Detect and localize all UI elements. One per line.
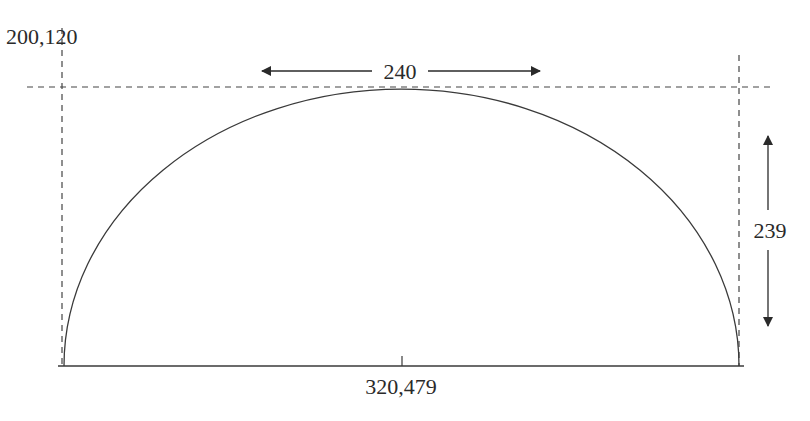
diagram-canvas: 200,120 240 239 320,479 xyxy=(0,0,810,421)
bottom-center-coord-label: 320,479 xyxy=(365,374,437,399)
semi-ellipse-arc xyxy=(64,89,739,366)
height-dimension-label: 239 xyxy=(754,218,787,243)
width-dimension-label: 240 xyxy=(384,59,417,84)
top-left-coord-label: 200,120 xyxy=(6,24,78,49)
